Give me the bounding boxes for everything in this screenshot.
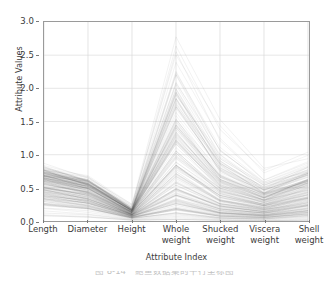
y-tick-label: 0.5: [20, 184, 34, 193]
y-tick-mark: [36, 21, 39, 22]
parallel-coordinates-figure: 0.00.51.01.52.02.53.0 Attribute Values L…: [0, 0, 329, 282]
x-tick-mark: [132, 220, 133, 223]
x-tick-mark: [309, 220, 310, 223]
data-lines: [44, 22, 309, 221]
x-tick-mark: [265, 220, 266, 223]
x-axis-label: Attribute Index: [43, 252, 310, 262]
y-axis-label: Attribute Values: [14, 19, 24, 139]
y-tick-mark: [36, 222, 39, 223]
y-tick-mark: [36, 155, 39, 156]
x-tick-mark: [220, 220, 221, 223]
x-axis: LengthDiameterHeightWhole weightShucked …: [43, 224, 310, 250]
y-tick-mark: [36, 55, 39, 56]
x-tick-mark: [43, 220, 44, 223]
y-tick-mark: [36, 122, 39, 123]
x-tick-mark: [176, 220, 177, 223]
figure-caption: 图 8-14 鲍鱼数据集的平行坐标图: [0, 271, 329, 282]
y-tick-label: 1.0: [20, 151, 34, 160]
x-tick-mark: [87, 220, 88, 223]
plot-area: [43, 21, 310, 222]
y-tick-mark: [36, 189, 39, 190]
figure-caption-text: 图 8-14 鲍鱼数据集的平行坐标图: [0, 271, 329, 277]
y-tick-mark: [36, 88, 39, 89]
x-tick-label: Shell weight: [278, 224, 329, 245]
